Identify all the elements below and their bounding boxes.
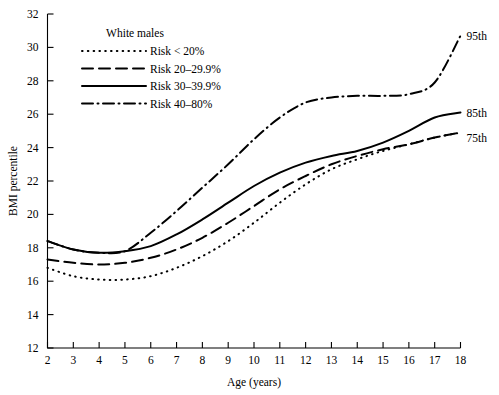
y-tick-label: 20 [27,208,39,220]
axis-spines [48,14,461,348]
x-tick-label: 4 [96,354,102,366]
x-tick-label: 16 [403,354,415,366]
x-tick-label: 12 [300,354,312,366]
x-tick-label: 8 [200,354,206,366]
series-line-2 [48,133,461,265]
y-axis-ticks: 1214161820222426283032 [27,8,54,354]
x-tick-label: 10 [248,354,260,366]
x-tick-label: 11 [274,354,285,366]
legend-label-3: Risk 30–39.9% [150,80,221,92]
x-tick-label: 13 [326,354,338,366]
y-axis-title: BMI percentile [7,146,20,216]
y-tick-label: 12 [27,342,39,354]
x-tick-label: 15 [377,354,389,366]
x-tick-label: 6 [148,354,154,366]
x-axis-ticks: 23456789101112131415161718 [45,342,467,366]
legend-label-1: Risk < 20% [150,45,205,57]
x-tick-label: 3 [70,354,76,366]
y-tick-label: 32 [27,8,39,20]
legend-label-4: Risk 40–80% [150,98,213,110]
x-tick-label: 18 [455,354,467,366]
y-tick-label: 30 [27,41,39,53]
y-tick-label: 18 [27,242,39,254]
series-end-labels: 75th85th95th [467,30,488,144]
x-tick-label: 7 [174,354,180,366]
y-tick-label: 28 [27,75,39,87]
y-tick-label: 16 [27,275,39,287]
x-tick-label: 5 [122,354,128,366]
axes [48,14,461,348]
x-tick-label: 17 [429,354,441,366]
y-tick-label: 24 [27,142,39,154]
x-axis-title: Age (years) [227,376,281,389]
end-label-85th: 85th [467,107,488,119]
legend-label-2: Risk 20–29.9% [150,63,221,75]
legend-title: White males [106,27,164,39]
chart-legend: White malesRisk < 20%Risk 20–29.9%Risk 3… [82,27,221,110]
data-series [48,36,461,280]
x-tick-label: 9 [225,354,231,366]
end-label-75th: 75th [467,132,488,144]
x-tick-label: 2 [45,354,51,366]
y-tick-label: 14 [27,309,39,321]
bmi-percentile-chart: 1214161820222426283032 23456789101112131… [0,0,499,395]
x-tick-label: 14 [352,354,364,366]
y-tick-label: 22 [27,175,39,187]
y-tick-label: 26 [27,108,39,120]
chart-canvas: 1214161820222426283032 23456789101112131… [0,0,499,395]
end-label-95th: 95th [467,30,488,42]
series-line-3 [48,113,461,253]
